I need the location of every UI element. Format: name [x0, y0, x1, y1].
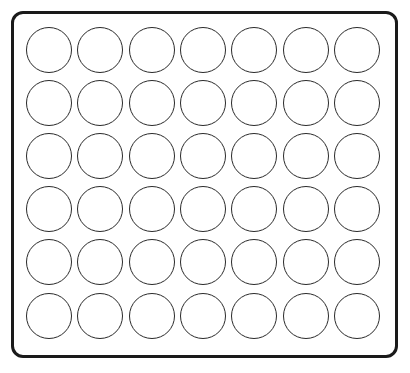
circle-cell — [26, 80, 72, 126]
circle-cell — [283, 186, 329, 232]
circle-cell — [334, 293, 380, 339]
circle-cell — [231, 27, 277, 73]
circle-cell — [129, 239, 175, 285]
circle-cell — [77, 133, 123, 179]
circle-cell — [129, 133, 175, 179]
circle-cell — [334, 27, 380, 73]
circle-cell — [129, 27, 175, 73]
circle-cell — [231, 293, 277, 339]
circle-cell — [129, 186, 175, 232]
circle-cell — [283, 133, 329, 179]
circle-cell — [283, 80, 329, 126]
circle-cell — [334, 80, 380, 126]
circle-cell — [180, 133, 226, 179]
circle-cell — [231, 239, 277, 285]
circle-cell — [129, 293, 175, 339]
circle-cell — [180, 186, 226, 232]
circle-cell — [77, 293, 123, 339]
circle-cell — [334, 186, 380, 232]
circle-cell — [180, 239, 226, 285]
circle-cell — [77, 239, 123, 285]
circle-cell — [26, 133, 72, 179]
circle-cell — [283, 293, 329, 339]
circle-grid — [26, 27, 386, 345]
circle-cell — [77, 186, 123, 232]
circle-cell — [26, 27, 72, 73]
circle-cell — [334, 239, 380, 285]
circle-cell — [283, 27, 329, 73]
circle-cell — [77, 80, 123, 126]
circle-cell — [231, 186, 277, 232]
circle-cell — [283, 239, 329, 285]
circle-cell — [77, 27, 123, 73]
circle-cell — [26, 239, 72, 285]
circle-cell — [180, 27, 226, 73]
circle-cell — [26, 186, 72, 232]
circle-cell — [231, 80, 277, 126]
circle-cell — [129, 80, 175, 126]
circle-cell — [26, 293, 72, 339]
circle-cell — [231, 133, 277, 179]
circle-cell — [180, 293, 226, 339]
circle-cell — [334, 133, 380, 179]
circle-cell — [180, 80, 226, 126]
